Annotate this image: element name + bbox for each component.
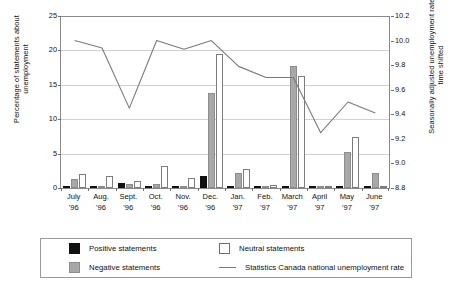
y-tick-left: 0 xyxy=(53,183,57,192)
unemployment-rate-line xyxy=(61,16,389,188)
y-tick-right: 9.6 xyxy=(395,85,405,94)
y-tick-right: 10.0 xyxy=(395,36,409,45)
y-tick-left: 5 xyxy=(53,149,57,158)
y-tick-right: 8.8 xyxy=(395,183,405,192)
x-tick-label: Nov.'96 xyxy=(169,192,196,213)
x-tick-label: Sept.'96 xyxy=(115,192,142,213)
y-tick-right: 10.2 xyxy=(395,11,409,20)
legend-label-positive: Positive statements xyxy=(89,244,157,253)
x-tick-label: Oct.'96 xyxy=(142,192,169,213)
legend-item-line: Statistics Canada national unemployment … xyxy=(219,262,411,273)
x-tick-label: May'97 xyxy=(333,192,360,213)
x-tick-label: Feb.'97 xyxy=(251,192,278,213)
negative-swatch-icon xyxy=(69,262,80,273)
positive-swatch-icon xyxy=(69,243,80,254)
y-tick-right: 9.4 xyxy=(395,109,405,118)
legend-label-negative: Negative statements xyxy=(89,263,160,272)
legend-item-neutral: Neutral statements xyxy=(219,243,411,254)
legend-label-neutral: Neutral statements xyxy=(239,244,304,253)
y-axis-right-title: Seasonally adjusted unemployment rate, t… xyxy=(427,0,445,135)
legend-item-negative: Negative statements xyxy=(69,262,219,273)
x-tick-label: Dec.'96 xyxy=(197,192,224,213)
y-tick-left: 25 xyxy=(49,11,57,20)
x-tick-label: Jan.'97 xyxy=(224,192,251,213)
line-swatch-icon xyxy=(219,262,236,273)
legend-item-positive: Positive statements xyxy=(69,243,219,254)
y-tick-right: 9.8 xyxy=(395,60,405,69)
y-tick-left: 20 xyxy=(49,45,57,54)
x-tick-label: July'96 xyxy=(60,192,87,213)
x-axis-labels: July'96Aug.'96Sept.'96Oct.'96Nov.'96Dec.… xyxy=(60,192,388,213)
chart-figure: Percentage of statements about unemploym… xyxy=(0,0,450,289)
x-tick-label: Aug.'96 xyxy=(87,192,114,213)
neutral-swatch-icon xyxy=(219,243,230,254)
x-tick-label: June'97 xyxy=(361,192,388,213)
x-tick-label: March'97 xyxy=(279,192,306,213)
y-tick-left: 15 xyxy=(49,80,57,89)
y-tick-right: 9.0 xyxy=(395,158,405,167)
y-tick-right: 9.2 xyxy=(395,134,405,143)
y-axis-left-title: Percentage of statements about unemploym… xyxy=(12,4,30,134)
plot-area: 0510152025 8.89.09.29.49.69.810.010.2 xyxy=(60,16,390,189)
y-tick-left: 10 xyxy=(49,114,57,123)
x-tick-label: April'97 xyxy=(306,192,333,213)
chart-legend: Positive statements Neutral statements N… xyxy=(40,238,412,278)
legend-label-line: Statistics Canada national unemployment … xyxy=(245,263,404,272)
